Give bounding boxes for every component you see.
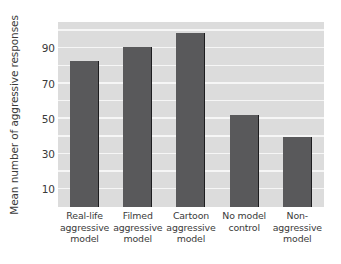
- x-axis-tick-label-line: Cartoon: [164, 210, 217, 222]
- x-axis-tick-label: Real-lifeaggressivemodel: [58, 210, 111, 245]
- y-axis-tick-label: 50: [28, 114, 55, 125]
- bar-group: [58, 22, 324, 207]
- x-axis-tick-label: Cartoonaggressivemodel: [164, 210, 217, 245]
- x-axis-tick-label-line: model: [111, 233, 164, 245]
- bar: [230, 115, 259, 207]
- y-axis-tick-label: 70: [28, 78, 55, 89]
- x-axis-tick-label-line: model: [58, 233, 111, 245]
- y-axis-tick-label: 90: [28, 43, 55, 54]
- bar: [176, 33, 205, 207]
- bar: [70, 61, 99, 207]
- y-axis-tick-label: 10: [28, 184, 55, 195]
- x-axis-tick-label-line: control: [218, 222, 271, 234]
- x-axis-tick-label-line: model: [164, 233, 217, 245]
- bar-slot: [164, 22, 217, 207]
- x-axis-tick-label: No modelcontrol: [218, 210, 271, 233]
- x-axis-tick-label-line: aggressive: [271, 222, 324, 234]
- x-axis-tick-label-line: Filmed: [111, 210, 164, 222]
- bar-slot: [111, 22, 164, 207]
- x-axis-tick-labels: Real-lifeaggressivemodelFilmedaggressive…: [58, 210, 324, 264]
- y-axis-tick-labels: 1030507090: [28, 22, 55, 207]
- x-axis-tick-label-line: model: [271, 233, 324, 245]
- x-axis-tick-label-line: Non-: [271, 210, 324, 222]
- bar-slot: [58, 22, 111, 207]
- bar-slot: [271, 22, 324, 207]
- bar-chart-figure: Mean number of aggressive responses 1030…: [0, 0, 341, 264]
- x-axis-tick-label-line: aggressive: [58, 222, 111, 234]
- bar: [123, 47, 152, 207]
- y-axis-tick-label: 30: [28, 149, 55, 160]
- plot-area: [58, 22, 324, 207]
- x-axis-tick-label-line: No model: [218, 210, 271, 222]
- x-axis-tick-label: Non-aggressivemodel: [271, 210, 324, 245]
- y-axis-label: Mean number of aggressive responses: [8, 15, 26, 215]
- bar-slot: [218, 22, 271, 207]
- x-axis-tick-label: Filmedaggressivemodel: [111, 210, 164, 245]
- x-axis-tick-label-line: Real-life: [58, 210, 111, 222]
- x-axis-tick-label-line: aggressive: [111, 222, 164, 234]
- x-axis-tick-label-line: aggressive: [164, 222, 217, 234]
- bar: [283, 137, 312, 207]
